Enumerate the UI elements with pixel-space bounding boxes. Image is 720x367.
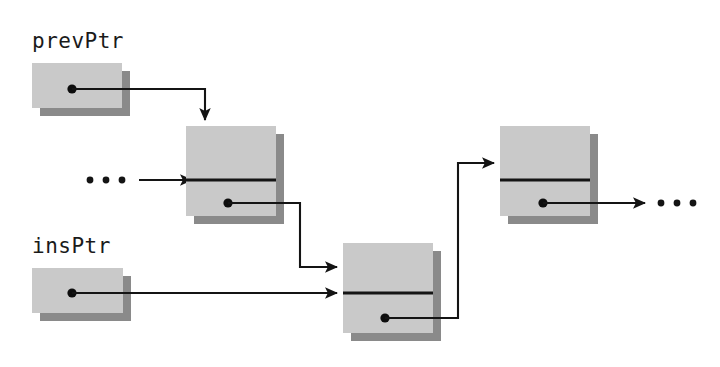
prevptr-label: prevPtr [32,29,124,53]
node-4 [500,126,598,224]
insptr-box-fill [32,268,123,313]
node-2 [186,126,284,224]
insptr-box [32,268,131,321]
right-ellipsis [658,200,697,207]
left-ellipsis [87,177,126,184]
insptr-label: insPtr [32,234,111,258]
prevptr-box-fill [32,63,122,108]
right-ellipsis-dot-3 [690,200,697,207]
left-ellipsis-dot-1 [87,177,94,184]
node-3 [343,243,441,341]
left-ellipsis-dot-2 [103,177,110,184]
diagram-canvas: prevPtr insPtr [0,0,720,367]
right-ellipsis-dot-2 [674,200,681,207]
left-ellipsis-dot-3 [119,177,126,184]
linked-list-diagram: prevPtr insPtr [0,0,720,367]
right-ellipsis-dot-1 [658,200,665,207]
